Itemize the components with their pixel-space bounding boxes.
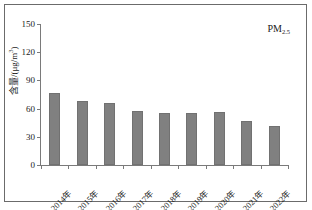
bar[interactable] (241, 121, 252, 165)
x-axis-tick (96, 165, 97, 169)
y-axis-tick-label: 60 (26, 104, 35, 113)
bar[interactable] (77, 101, 88, 165)
y-axis-tick-label: 90 (26, 76, 35, 85)
x-axis-tick (68, 165, 69, 169)
bar[interactable] (269, 126, 280, 165)
bar[interactable] (214, 112, 225, 165)
x-axis-tick (151, 165, 152, 169)
y-axis-title-text: 含量/(μg/m (9, 53, 19, 95)
bar[interactable] (159, 113, 170, 165)
bar[interactable] (132, 111, 143, 165)
bar[interactable] (104, 103, 115, 165)
x-axis-tick (123, 165, 124, 169)
x-axis-tick (233, 165, 234, 169)
y-axis-tick-label: 120 (22, 48, 36, 57)
bar-series-group (41, 24, 288, 165)
y-axis-tick-label: 0 (31, 161, 36, 170)
y-axis-tick-label: 150 (22, 20, 36, 29)
pm25-bar-chart-figure: 含量/(μg/m3) PM2.5 0306090120150 2014年2015… (0, 0, 312, 210)
y-axis-tick-label: 30 (26, 132, 35, 141)
x-axis-tick (206, 165, 207, 169)
x-axis-tick (288, 165, 289, 169)
x-axis-tick (41, 165, 42, 169)
bar[interactable] (186, 113, 197, 165)
y-axis-title-tail: ) (9, 46, 19, 49)
y-axis-title-exponent: 3 (7, 49, 14, 52)
bar[interactable] (49, 93, 60, 165)
x-axis-tick (178, 165, 179, 169)
x-axis-tick (261, 165, 262, 169)
y-axis-title: 含量/(μg/m3) (8, 46, 19, 95)
plot-area: 0306090120150 2014年2015年2016年2017年2018年2… (40, 24, 288, 166)
